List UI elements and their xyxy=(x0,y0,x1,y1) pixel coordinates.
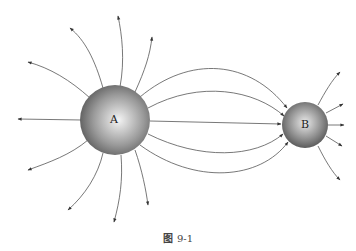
charge-b-label: B xyxy=(301,118,309,131)
caption-number: 9-1 xyxy=(177,233,193,244)
charge-a-label: A xyxy=(110,113,118,126)
electric-field-diagram: A B xyxy=(0,0,356,251)
figure-caption: 图9-1 xyxy=(0,230,356,245)
caption-prefix: 图 xyxy=(163,233,173,244)
